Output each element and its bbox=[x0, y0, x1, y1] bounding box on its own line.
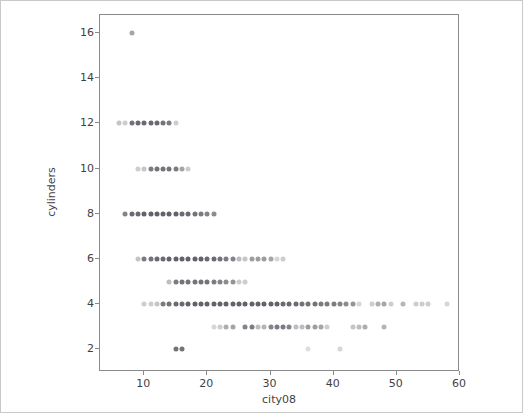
scatter-point bbox=[249, 257, 254, 262]
scatter-point bbox=[173, 279, 178, 284]
scatter-point bbox=[154, 211, 159, 216]
scatter-point bbox=[319, 324, 324, 329]
scatter-point bbox=[350, 324, 355, 329]
scatter-point bbox=[116, 121, 121, 126]
plot-area bbox=[99, 14, 459, 371]
scatter-point bbox=[173, 257, 178, 262]
scatter-point bbox=[255, 257, 260, 262]
scatter-point bbox=[274, 324, 279, 329]
scatter-point bbox=[154, 121, 159, 126]
scatter-point bbox=[142, 257, 147, 262]
scatter-point bbox=[167, 279, 172, 284]
scatter-point bbox=[180, 166, 185, 171]
x-axis-tick-label: 30 bbox=[263, 377, 277, 390]
scatter-point bbox=[123, 211, 128, 216]
scatter-point bbox=[338, 347, 343, 352]
scatter-point bbox=[249, 324, 254, 329]
scatter-point bbox=[382, 324, 387, 329]
scatter-point bbox=[356, 324, 361, 329]
scatter-point bbox=[186, 211, 191, 216]
x-axis-tick-mark bbox=[206, 371, 207, 375]
scatter-point bbox=[142, 211, 147, 216]
scatter-point bbox=[167, 257, 172, 262]
scatter-point bbox=[262, 302, 267, 307]
scatter-point bbox=[230, 279, 235, 284]
scatter-point bbox=[135, 166, 140, 171]
y-axis-tick-label: 14 bbox=[80, 71, 94, 84]
scatter-point bbox=[306, 324, 311, 329]
scatter-point bbox=[205, 211, 210, 216]
scatter-point bbox=[154, 257, 159, 262]
scatter-point bbox=[173, 121, 178, 126]
scatter-point bbox=[331, 302, 336, 307]
scatter-point bbox=[148, 121, 153, 126]
scatter-point bbox=[135, 121, 140, 126]
scatter-point bbox=[281, 302, 286, 307]
scatter-point bbox=[249, 302, 254, 307]
scatter-point bbox=[262, 257, 267, 262]
y-axis-tick-label: 10 bbox=[80, 161, 94, 174]
scatter-point bbox=[180, 347, 185, 352]
scatter-point bbox=[287, 324, 292, 329]
scatter-point bbox=[236, 279, 241, 284]
scatter-point bbox=[281, 257, 286, 262]
scatter-point bbox=[135, 257, 140, 262]
scatter-point bbox=[161, 257, 166, 262]
scatter-point bbox=[274, 302, 279, 307]
scatter-point bbox=[243, 279, 248, 284]
scatter-point bbox=[129, 211, 134, 216]
y-axis-tick-mark bbox=[95, 303, 99, 304]
scatter-point bbox=[445, 302, 450, 307]
scatter-point bbox=[230, 324, 235, 329]
scatter-point bbox=[154, 166, 159, 171]
scatter-point bbox=[161, 121, 166, 126]
scatter-point bbox=[218, 279, 223, 284]
scatter-point bbox=[375, 302, 380, 307]
scatter-point bbox=[218, 302, 223, 307]
scatter-point bbox=[312, 302, 317, 307]
scatter-point bbox=[281, 324, 286, 329]
scatter-point bbox=[218, 257, 223, 262]
y-axis-tick-label: 4 bbox=[87, 297, 94, 310]
x-axis-tick-label: 50 bbox=[389, 377, 403, 390]
scatter-point bbox=[199, 211, 204, 216]
scatter-point bbox=[205, 302, 210, 307]
x-axis-tick-label: 40 bbox=[326, 377, 340, 390]
y-axis-tick-mark bbox=[95, 213, 99, 214]
scatter-point bbox=[211, 211, 216, 216]
scatter-point bbox=[344, 302, 349, 307]
scatter-point bbox=[426, 302, 431, 307]
y-axis-tick-mark bbox=[95, 168, 99, 169]
scatter-point bbox=[312, 324, 317, 329]
scatter-point bbox=[287, 302, 292, 307]
scatter-point bbox=[369, 302, 374, 307]
figure-canvas: 246810121416 cylinders city08 1020304050… bbox=[0, 0, 523, 413]
scatter-point bbox=[243, 257, 248, 262]
scatter-point bbox=[167, 166, 172, 171]
scatter-point bbox=[363, 324, 368, 329]
scatter-point bbox=[205, 279, 210, 284]
scatter-point bbox=[401, 302, 406, 307]
scatter-point bbox=[135, 211, 140, 216]
scatter-point bbox=[173, 211, 178, 216]
x-axis-tick-mark bbox=[396, 371, 397, 375]
scatter-points-layer bbox=[100, 15, 458, 370]
scatter-point bbox=[224, 257, 229, 262]
y-axis-tick-mark bbox=[95, 32, 99, 33]
scatter-point bbox=[180, 279, 185, 284]
x-axis-tick-mark bbox=[459, 371, 460, 375]
y-axis-tick-mark bbox=[95, 258, 99, 259]
scatter-point bbox=[255, 324, 260, 329]
scatter-point bbox=[306, 347, 311, 352]
y-axis-tick-mark bbox=[95, 77, 99, 78]
scatter-point bbox=[293, 324, 298, 329]
scatter-point bbox=[388, 302, 393, 307]
scatter-point bbox=[255, 302, 260, 307]
scatter-point bbox=[142, 302, 147, 307]
scatter-point bbox=[230, 257, 235, 262]
scatter-point bbox=[268, 257, 273, 262]
scatter-point bbox=[413, 302, 418, 307]
scatter-point bbox=[167, 211, 172, 216]
scatter-point bbox=[192, 279, 197, 284]
scatter-point bbox=[161, 302, 166, 307]
